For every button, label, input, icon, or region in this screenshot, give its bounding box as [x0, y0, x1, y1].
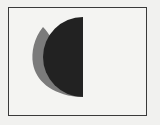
figure-canvas — [0, 0, 160, 125]
